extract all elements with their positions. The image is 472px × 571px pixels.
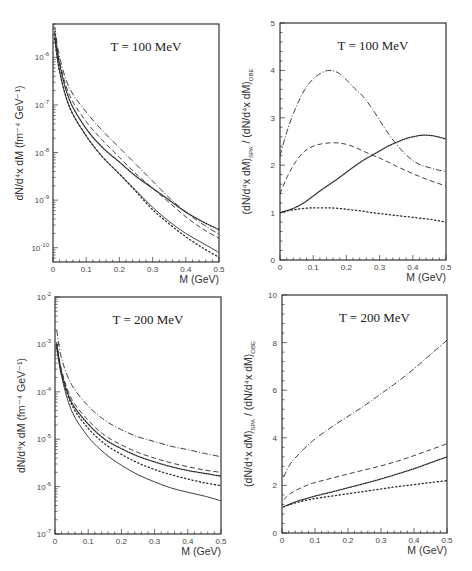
y-tick-label: 2	[273, 481, 278, 490]
y-tick-label: 0	[273, 529, 278, 538]
plot-frame	[282, 295, 447, 533]
y-axis: 0246810	[268, 291, 287, 538]
series-dense-dotted	[284, 457, 447, 507]
plot-title: T = 200 MeV	[339, 310, 411, 325]
chart-br: 00.10.20.30.40.5M (GeV)0246810(dN/d⁴x dM…	[0, 0, 472, 571]
series-dash-dot	[284, 340, 447, 477]
x-axis-label: M (GeV)	[407, 544, 447, 556]
y-axis-label: (dN/d⁴x dM)SPA / (dN/d⁴x dM)OBE	[242, 341, 256, 487]
x-tick-label: 0.3	[375, 536, 387, 545]
x-tick-label: 0	[280, 536, 285, 545]
panel-bottom-right-ratio-200mev: 00.10.20.30.40.5M (GeV)0246810(dN/d⁴x dM…	[0, 0, 472, 571]
y-tick-label: 6	[273, 386, 278, 395]
y-tick-label: 4	[273, 434, 278, 443]
y-tick-label: 10	[268, 291, 277, 300]
x-axis: 00.10.20.30.40.5M (GeV)	[280, 528, 453, 556]
y-tick-label: 8	[273, 339, 278, 348]
x-tick-label: 0.2	[342, 536, 354, 545]
x-tick-label: 0.1	[309, 536, 321, 545]
curves	[284, 340, 447, 507]
